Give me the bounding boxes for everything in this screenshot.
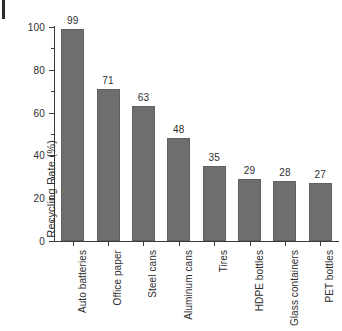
x-category-label: Tires [218,250,229,272]
bar [132,106,155,241]
scan-edge-artifact [2,0,5,19]
x-category-label: PET bottles [324,250,335,303]
x-category-label: Glass containers [289,250,300,326]
bar-value-label: 63 [138,92,150,103]
bar-value-label: 28 [279,167,291,178]
y-tick-label: 40 [0,150,45,161]
y-tick-label: 20 [0,193,45,204]
x-axis-line [54,241,339,242]
bar-value-label: 27 [315,169,327,180]
plot-area [55,27,338,241]
bar [203,166,226,241]
y-tick-minor [51,48,54,49]
bar-value-label: 48 [173,124,185,135]
x-tick [320,241,321,246]
y-tick-label: 60 [0,107,45,118]
x-tick [214,241,215,246]
x-category-label: Aluminum cans [183,250,194,320]
x-category-label: Auto batteries [77,250,88,313]
y-tick-minor [51,134,54,135]
bar [61,29,84,241]
x-tick [179,241,180,246]
bar [167,138,190,241]
y-tick-label: 80 [0,64,45,75]
x-category-label: HDPE bottles [254,250,265,311]
bar-value-label: 35 [208,152,220,163]
y-tick-major [49,70,54,71]
y-tick-label: 0 [0,236,45,247]
bar [238,179,261,241]
y-tick-major [49,155,54,156]
y-tick-major [49,198,54,199]
x-tick [108,241,109,246]
y-tick-minor [51,91,54,92]
x-tick [250,241,251,246]
y-tick-minor [51,177,54,178]
y-tick-major [49,27,54,28]
bar-value-label: 71 [102,75,114,86]
y-tick-label: 100 [0,22,45,33]
x-tick [73,241,74,246]
recycling-rate-bar-chart: Recycling Rate (%) 020406080100 99716348… [0,0,342,331]
x-category-label: Steel cans [147,250,158,298]
bar-value-label: 29 [244,165,256,176]
bar [273,181,296,241]
y-tick-major [49,241,54,242]
y-tick-major [49,113,54,114]
bar [97,89,120,241]
x-tick [285,241,286,246]
y-tick-minor [51,220,54,221]
bar-value-label: 99 [67,15,79,26]
x-category-label: Office paper [112,250,123,306]
bar [309,183,332,241]
x-tick [143,241,144,246]
